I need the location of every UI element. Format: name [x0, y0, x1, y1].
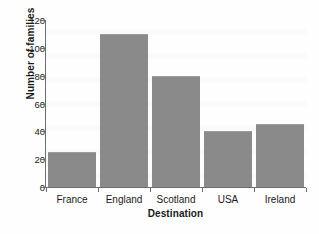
- x-axis-label-france: France: [56, 194, 87, 205]
- plot-area: [46, 20, 306, 187]
- bar-usa: [204, 131, 252, 187]
- bar-england: [100, 34, 148, 187]
- x-axis-line: [45, 187, 306, 188]
- x-axis-label-england: England: [106, 194, 143, 205]
- x-axis-label-usa: USA: [218, 194, 239, 205]
- x-axis-tick-mark: [98, 188, 99, 192]
- bar-france: [48, 152, 96, 187]
- x-axis-tick-mark: [306, 188, 307, 192]
- bar-ireland: [256, 124, 304, 187]
- x-axis-title: Destination: [45, 208, 306, 219]
- x-axis-tick-mark: [46, 188, 47, 192]
- x-axis-tick-mark: [202, 188, 203, 192]
- x-axis-label-scotland: Scotland: [157, 194, 196, 205]
- x-axis-tick-mark: [150, 188, 151, 192]
- x-axis-label-ireland: Ireland: [265, 194, 296, 205]
- bar-scotland: [152, 76, 200, 187]
- x-axis-tick-mark: [254, 188, 255, 192]
- bar-chart-figure: Number of families 020406080100120 Franc…: [0, 0, 319, 234]
